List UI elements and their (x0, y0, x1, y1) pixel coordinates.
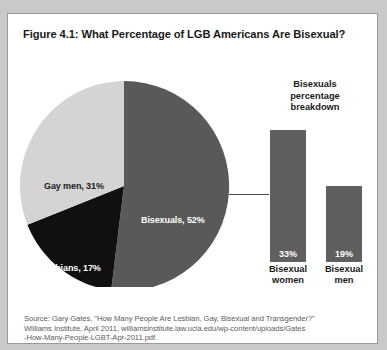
bar-heading-line-1: Bisexuals (251, 79, 379, 91)
source-line-2: Williams Institute, April 2011, williams… (24, 324, 374, 334)
callout-leader-line (229, 194, 269, 195)
bar-caption-women: Bisexual women (268, 264, 308, 285)
bar-caption-women-line-1: Bisexual (268, 264, 308, 275)
figure-box: Figure 4.1: What Percentage of LGB Ameri… (7, 13, 378, 344)
bar-group-bisexual-women: 33% Bisexual women (268, 130, 308, 285)
source-note: Source: Gary Gates, "How Many People Are… (24, 314, 374, 343)
pie-chart-svg (12, 55, 240, 287)
bar-track-women: 33% (268, 130, 308, 262)
bar-caption-men-line-1: Bisexual (324, 264, 364, 275)
pie-label-bisexuals: Bisexuals, 52% (141, 215, 205, 225)
pie-label-gay-men: Gay men, 31% (44, 181, 104, 191)
source-line-3: -How-Many-People-LGBT-Apr-2011.pdf. (24, 333, 374, 343)
bar-bisexual-women: 33% (270, 130, 306, 262)
bar-caption-men-line-2: men (324, 275, 364, 286)
bar-caption-men: Bisexual men (324, 264, 364, 285)
bar-chart-heading: Bisexuals percentage breakdown (251, 79, 379, 114)
bar-track-men: 19% (324, 130, 364, 262)
bar-value-women: 33% (270, 249, 306, 259)
pie-label-lesbians: Lesbians, 17% (40, 263, 101, 273)
bar-group-bisexual-men: 19% Bisexual men (324, 130, 364, 285)
bar-value-men: 19% (326, 249, 362, 259)
bar-heading-line-3: breakdown (251, 102, 379, 114)
source-line-1: Source: Gary Gates, "How Many People Are… (24, 314, 374, 324)
bar-caption-women-line-2: women (268, 275, 308, 286)
pie-slice-bisexuals (111, 81, 229, 287)
bar-bisexual-men: 19% (326, 186, 362, 262)
figure-title: Figure 4.1: What Percentage of LGB Ameri… (23, 28, 368, 41)
pie-chart: Bisexuals, 52% Gay men, 31% Lesbians, 17… (12, 55, 240, 287)
bar-heading-line-2: percentage (251, 91, 379, 103)
